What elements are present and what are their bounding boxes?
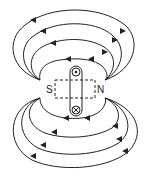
- arrow-icon: [50, 40, 56, 46]
- arrow-icon: [65, 56, 71, 62]
- north-label: N: [97, 84, 104, 95]
- magnet-outline: [55, 80, 95, 98]
- arrow-icon: [84, 115, 90, 121]
- magnetic-field-diagram: S N: [0, 0, 145, 178]
- south-label: S: [46, 84, 53, 95]
- arrow-icon: [116, 136, 122, 142]
- current-out-dot: [75, 71, 78, 74]
- arrow-icon: [30, 153, 36, 159]
- field-line-bottom-4: [13, 98, 137, 168]
- arrow-icon: [51, 129, 57, 135]
- arrow-icon: [40, 142, 46, 148]
- arrow-icon: [120, 28, 126, 34]
- arrow-icon: [63, 115, 69, 121]
- arrow-icon: [122, 148, 128, 154]
- arrow-icon: [112, 123, 118, 129]
- arrow-icon: [40, 28, 46, 34]
- arrow-icon: [30, 17, 36, 23]
